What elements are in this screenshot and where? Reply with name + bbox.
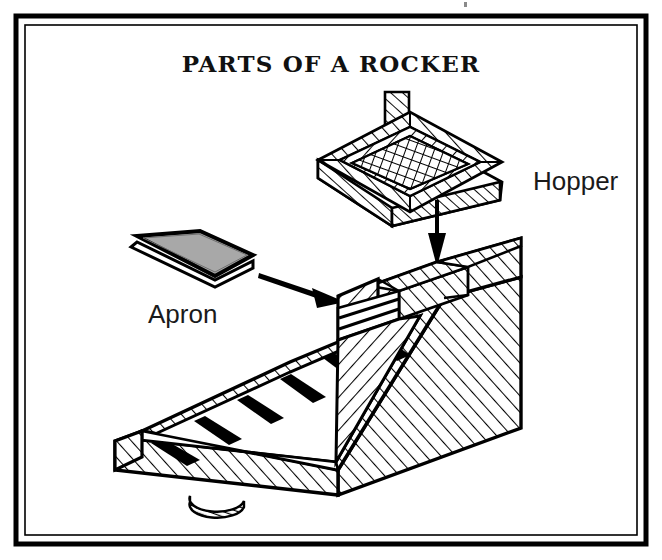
hopper-label: Hopper (533, 166, 619, 196)
figure-title: PARTS OF A ROCKER (182, 50, 481, 77)
apron-label: Apron (148, 299, 217, 329)
print-speck (464, 2, 467, 7)
diagram-canvas: PARTS OF A ROCKER (0, 0, 662, 560)
rocker-diagram-figure: PARTS OF A ROCKER (0, 0, 662, 560)
